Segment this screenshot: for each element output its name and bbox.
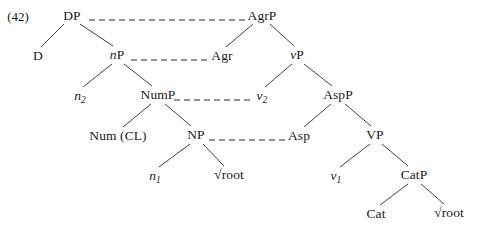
tree-node-Cat: Cat [366,207,385,221]
node-label-text: NumP [141,87,176,102]
node-label-text: Asp [288,128,310,143]
branch-VP-v1 [340,144,370,167]
node-label-text: Cat [366,206,385,221]
branch-AgrP-Agr [226,24,253,47]
tree-node-root1: √root [214,168,244,182]
node-label-text: Agr [211,48,232,63]
tree-node-NumCL: Num (CL) [89,129,146,143]
node-label-text: root [222,167,244,182]
tree-node-nP: nP [110,48,124,62]
tree-node-AspP: AspP [323,88,353,102]
tree-node-n1: n1 [149,169,161,183]
branch-CatP-Cat [380,184,408,205]
root-radical-icon: √ [434,205,442,220]
branch-CatP-root2 [421,184,444,204]
branch-VP-CatP [382,144,408,166]
branch-DP-D [41,24,64,47]
node-italic-prefix: n [74,88,81,103]
tree-node-v2: v2 [257,89,268,103]
tree-node-vP: vP [290,48,304,62]
branch-nP-n2 [83,64,112,87]
branch-AgrP-vP [270,24,294,46]
node-index-subscript: 1 [337,175,342,185]
node-label-text: Num (CL) [89,128,146,143]
branch-AspP-Asp [304,104,331,127]
dashed-link-group [89,20,288,140]
node-label-text: P [296,47,304,62]
tree-node-n2: n2 [74,89,86,103]
tree-node-Asp: Asp [288,129,310,143]
syntax-tree-diagram: (42) DPAgrPDnPAgrvPn2NumPv2AspPNum (CL)N… [0,0,477,232]
tree-node-NP: NP [187,128,204,142]
node-index-subscript: 2 [263,95,268,105]
tree-node-Agr: Agr [211,49,232,63]
tree-node-NumP: NumP [141,88,176,102]
node-italic-prefix: n [110,47,117,62]
tree-node-v1: v1 [331,169,342,183]
tree-node-VP: VP [366,128,383,142]
tree-lines-layer [0,0,477,232]
node-label-text: AspP [323,87,353,102]
node-label-text: AgrP [248,8,277,23]
branch-nP-NumP [124,64,152,86]
node-index-subscript: 1 [156,175,161,185]
node-label-text: VP [366,127,383,142]
branch-NumP-NumCL [123,104,151,127]
node-label-text: NP [187,127,204,142]
node-label-text: D [33,48,43,63]
branch-DP-nP [80,24,113,46]
branch-vP-v2 [265,64,292,87]
example-number: (42) [7,10,29,23]
node-label-text: DP [63,8,80,23]
tree-node-CatP: CatP [401,168,428,182]
node-italic-prefix: n [149,168,156,183]
branch-NP-n1 [159,144,190,167]
node-label-text: root [442,205,464,220]
node-index-subscript: 2 [81,95,86,105]
tree-node-D: D [33,49,43,63]
node-label-text: CatP [401,167,428,182]
root-radical-icon: √ [214,167,222,182]
branch-AspP-VP [345,104,371,126]
branch-NumP-NP [165,104,191,126]
node-label-text: P [117,47,125,62]
tree-node-DP: DP [63,9,80,23]
tree-node-root2: √root [434,206,464,220]
branch-vP-AspP [304,64,332,86]
tree-node-AgrP: AgrP [248,9,277,23]
branch-NP-root1 [203,144,224,166]
